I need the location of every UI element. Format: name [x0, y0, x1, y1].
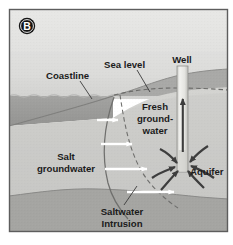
fresh-groundwater-label-line2: ground- — [137, 113, 173, 124]
paper-texture — [9, 9, 228, 232]
saltwater-intrusion-label-line1: Saltwater — [101, 206, 144, 217]
diagram-canvas: B Coastline Sea level Well Fresh ground-… — [0, 0, 233, 245]
coastline-label: Coastline — [46, 70, 89, 81]
fresh-groundwater-label-line1: Fresh — [142, 101, 168, 112]
illustration-body — [9, 9, 228, 232]
saltwater-intrusion-label: Saltwater Intrusion — [101, 206, 144, 229]
panel-letter-text: B — [23, 20, 31, 32]
salt-groundwater-label-line2: groundwater — [37, 163, 95, 174]
fresh-groundwater-label-line3: water — [141, 125, 167, 136]
well-label: Well — [172, 54, 192, 65]
saltwater-intrusion-label-line2: Intrusion — [101, 218, 142, 229]
saltwater-intrusion-figure: B Coastline Sea level Well Fresh ground-… — [0, 0, 233, 245]
aquifer-label: Aquifer — [190, 166, 224, 177]
well-screen — [179, 150, 187, 172]
salt-groundwater-label-line1: Salt — [57, 151, 75, 162]
panel-letter-badge: B — [19, 18, 35, 34]
sea-level-label: Sea level — [104, 59, 145, 70]
